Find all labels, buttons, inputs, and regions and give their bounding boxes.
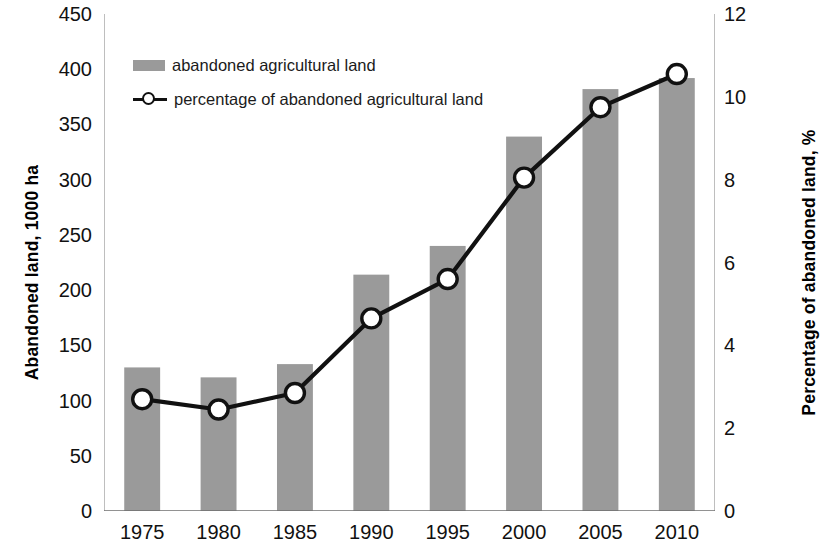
x-axis-tick-label: 1975 [120,521,165,544]
y-axis-left-tick-label: 400 [59,58,92,81]
line-marker [209,400,228,419]
line-marker [133,390,152,409]
y-axis-left-tick-label: 350 [59,113,92,136]
line-marker [667,65,686,84]
legend-item-label: abandoned agricultural land [172,56,376,75]
chart-legend: abandoned agricultural land percentage o… [133,48,603,116]
legend-bar-swatch-icon [133,60,165,71]
x-axis-ticks: 19751980198519901995200020052010 [0,521,807,555]
line-marker [438,270,457,289]
y-axis-left-tick-label: 450 [59,3,92,26]
bar [582,89,618,511]
y-axis-right-tick-label: 0 [724,500,735,523]
y-axis-left-tick-label: 100 [59,389,92,412]
legend-line-marker-icon [133,91,167,107]
y-axis-left-tick-label: 300 [59,168,92,191]
y-axis-right-tick-label: 12 [724,3,746,26]
bar [201,377,237,511]
line-marker [285,383,304,402]
y-axis-right-title: Percentage of abandoned land, % [799,123,820,423]
x-axis-tick-label: 1995 [425,521,470,544]
y-axis-left-tick-label: 250 [59,223,92,246]
legend-item-label: percentage of abandoned agricultural lan… [174,90,483,109]
bar [659,78,695,511]
legend-item-bars: abandoned agricultural land [133,48,603,82]
y-axis-left-ticks: 050100150200250300350400450 [0,0,92,560]
line-marker [515,168,534,187]
y-axis-left-tick-label: 50 [70,444,92,467]
y-axis-right-ticks: 024681012 [724,0,784,560]
y-axis-left-tick-label: 200 [59,279,92,302]
x-axis-tick-label: 1990 [349,521,394,544]
x-axis-tick-label: 2000 [502,521,547,544]
x-axis-tick-label: 1985 [273,521,318,544]
x-axis-tick-label: 2010 [655,521,700,544]
y-axis-right-tick-label: 4 [724,334,735,357]
line-marker [362,309,381,328]
y-axis-right-tick-label: 6 [724,251,735,274]
y-axis-left-tick-label: 0 [81,500,92,523]
y-axis-left-tick-label: 150 [59,334,92,357]
y-axis-right-tick-label: 2 [724,417,735,440]
x-axis-tick-label: 2005 [578,521,623,544]
legend-item-line: percentage of abandoned agricultural lan… [133,82,603,116]
y-axis-right-tick-label: 8 [724,168,735,191]
x-axis-tick-label: 1980 [196,521,241,544]
y-axis-right-tick-label: 10 [724,85,746,108]
